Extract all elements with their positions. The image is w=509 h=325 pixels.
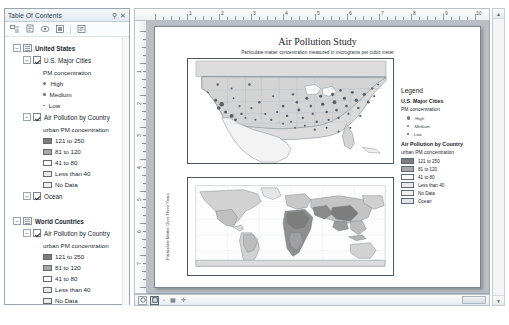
toc-toolbar [5, 22, 129, 37]
data-frame-icon [23, 217, 32, 225]
toc-class-label: No Data [55, 181, 78, 188]
toc-dataframe-united-states[interactable]: − United States [9, 42, 127, 54]
class-swatch [43, 276, 52, 282]
vertical-ruler[interactable]: 1 2 3 4 5 6 7 [134, 21, 147, 294]
list-by-visibility-icon[interactable] [39, 24, 50, 35]
toc-class-label: 41 to 80 [55, 275, 77, 282]
toc-label: World Countries [35, 218, 84, 225]
expander-icon[interactable]: − [23, 229, 31, 237]
toc-label: U.S. Major Cities [44, 57, 91, 64]
list-by-selection-icon[interactable] [54, 24, 65, 35]
expander-icon[interactable]: − [23, 192, 31, 200]
layer-visibility-checkbox[interactable] [33, 56, 41, 64]
toc-sublabel: urban PM concentration [43, 242, 109, 249]
layout-view-icon[interactable] [150, 296, 159, 305]
layer-visibility-checkbox[interactable] [33, 192, 41, 200]
class-swatch [43, 182, 52, 188]
ruler-tick-label: 10 [476, 10, 482, 16]
legend-item-label: Low [414, 132, 422, 137]
class-swatch [43, 171, 52, 177]
layout-canvas[interactable]: Air Pollution Study Particulate matter c… [147, 21, 490, 294]
toc-class-label: 41 to 80 [55, 159, 77, 166]
class-swatch [401, 182, 414, 189]
zoom-in-icon[interactable]: ◦ [163, 297, 165, 303]
legend-item-label: Less than 40 [418, 183, 444, 188]
toc-label: Ocean [44, 193, 63, 200]
ruler-tick-label: 5 [317, 10, 320, 16]
map-legend[interactable]: Legend U.S. Major Cities PM concentratio… [401, 87, 477, 205]
toc-symbol-high: High [9, 78, 127, 89]
select-icon[interactable]: ✛ [181, 297, 186, 303]
legend-item-ocean: Ocean [401, 197, 477, 205]
ruler-tick-label: 6 [136, 230, 142, 233]
toc-class-label: Less than 40 [55, 170, 90, 177]
list-by-drawing-order-icon[interactable] [9, 24, 20, 35]
toc-scrollbar[interactable] [122, 37, 129, 306]
world-countries-data-frame[interactable] [187, 177, 394, 276]
class-swatch [43, 265, 52, 271]
ruler-tick-label: 9 [445, 10, 448, 16]
toc-class-81-120-world: 81 to 120 [9, 262, 127, 273]
toc-layer-air-pollution-by-country-world[interactable]: − Air Pollution by Country [9, 227, 127, 239]
expander-icon[interactable]: − [23, 113, 31, 121]
toc-layer-tree[interactable]: − United States − U.S. Major Cities PM c… [5, 37, 129, 304]
pin-icon[interactable]: ⚲ [112, 12, 117, 19]
vertical-side-label: Particulate Matter Over Three Years [162, 177, 172, 276]
legend-item-label: High [415, 116, 424, 121]
class-swatch [43, 138, 52, 144]
toc-class-no-data-world: No Data [9, 295, 127, 304]
toc-class-41-80-world: 41 to 80 [9, 273, 127, 284]
layout-page[interactable]: Air Pollution Study Particulate matter c… [154, 26, 481, 288]
toc-dataframe-world-countries[interactable]: − World Countries [9, 215, 127, 227]
point-symbol-icon [43, 93, 46, 96]
scroll-down-icon[interactable]: ▼ [493, 295, 504, 305]
tree-gap [9, 202, 127, 215]
class-swatch [401, 158, 414, 165]
expander-icon[interactable]: − [13, 217, 21, 225]
toc-sublabel: PM concentration [43, 69, 91, 76]
list-by-source-icon[interactable] [24, 24, 35, 35]
class-swatch [401, 166, 414, 173]
legend-item-label: 41 to 80 [418, 175, 435, 180]
legend-section-subtitle-cities: PM concentration [401, 106, 477, 112]
toc-layer-air-pollution-by-country-us[interactable]: − Air Pollution by Country [9, 111, 127, 123]
status-bar-resize-grip[interactable] [462, 296, 486, 304]
toc-sublabel-pm-concentration: PM concentration [9, 66, 127, 78]
data-view-icon[interactable] [138, 296, 147, 305]
toc-titlebar: Table Of Contents ⚲ ✕ [5, 9, 129, 22]
legend-item-label: No Data [418, 191, 435, 196]
toc-class-label: No Data [55, 297, 78, 304]
close-icon[interactable]: ✕ [120, 12, 126, 19]
page-subtitle: Particulate matter concentration measure… [155, 50, 480, 55]
expander-icon[interactable]: − [23, 56, 31, 64]
pan-icon[interactable]: ▦ [170, 297, 176, 303]
ruler-tick-label: 1 [136, 70, 142, 73]
legend-item-less-than-40: Less than 40 [401, 181, 477, 189]
toc-sublabel-urban-pm-world: urban PM concentration [9, 239, 127, 251]
world-map-graphic [188, 178, 393, 275]
legend-heading: Legend [401, 87, 477, 94]
class-swatch [43, 298, 52, 304]
united-states-data-frame[interactable] [187, 58, 394, 164]
scroll-up-icon[interactable]: ▲ [493, 9, 504, 19]
toc-class-41-80: 41 to 80 [9, 157, 127, 168]
horizontal-ruler[interactable]: 1 2 3 4 5 6 7 8 9 10 [134, 8, 490, 21]
legend-item-medium: Medium [401, 122, 477, 130]
class-swatch [43, 254, 52, 260]
toolbar-separator [70, 25, 71, 34]
toc-class-less-than-40: Less than 40 [9, 168, 127, 179]
ruler-tick-label: 3 [253, 10, 256, 16]
class-swatch [43, 149, 52, 155]
toc-class-less-than-40-world: Less than 40 [9, 284, 127, 295]
toc-layer-us-major-cities[interactable]: − U.S. Major Cities [9, 54, 127, 66]
class-swatch [43, 160, 52, 166]
class-swatch [401, 190, 414, 197]
vertical-scrollbar[interactable]: ▲ ▼ [492, 8, 505, 306]
layer-visibility-checkbox[interactable] [33, 113, 41, 121]
legend-item-label: 81 to 120 [418, 167, 437, 172]
layer-visibility-checkbox[interactable] [33, 229, 41, 237]
legend-item-41-80: 41 to 80 [401, 173, 477, 181]
options-icon[interactable] [76, 24, 87, 35]
expander-icon[interactable]: − [13, 44, 21, 52]
toc-layer-ocean-us[interactable]: − Ocean [9, 190, 127, 202]
